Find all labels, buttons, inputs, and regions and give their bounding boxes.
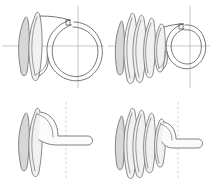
coil-turn-1 [115, 116, 124, 170]
coil-inner-loop [52, 25, 98, 77]
coil-turn-1 [19, 113, 30, 171]
panel-top-left [0, 0, 106, 94]
panel-bottom-right [106, 94, 212, 187]
panel-bottom-left [0, 94, 106, 187]
coil-inner-loop [171, 29, 201, 64]
panel-top-right [106, 0, 212, 94]
coil-transition-upper [40, 16, 70, 20]
coil-geometry-top-right [115, 13, 205, 83]
coil-outer-loop [47, 20, 102, 81]
coil-geometry-bottom-right [115, 108, 202, 178]
axis-crosshair-top-left [2, 6, 104, 88]
coil-turn-1 [19, 17, 30, 76]
coil-geometry-bottom-left [19, 108, 93, 176]
coil-geometry-top-left [19, 12, 103, 81]
figure-canvas [0, 0, 212, 187]
coil-tail-tube [162, 122, 203, 148]
coil-turn-1 [115, 21, 124, 75]
